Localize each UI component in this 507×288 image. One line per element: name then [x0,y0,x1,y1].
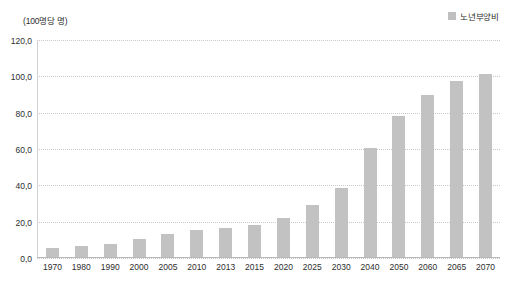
x-axis-tick-label: 2070 [471,262,500,272]
x-axis-tick-label: 1970 [38,262,67,272]
bar[interactable] [133,239,146,257]
legend-item-label: 노년부양비 [460,10,499,22]
bar[interactable] [392,116,405,257]
bar[interactable] [450,81,463,257]
x-axis-tick-label: 1990 [96,262,125,272]
bar-slot [298,40,327,257]
x-axis-tick-label: 2013 [211,262,240,272]
y-axis-tick-label: 20,0 [15,218,32,227]
bar[interactable] [421,95,434,257]
y-axis-tick-label: 100,0 [11,73,32,82]
bar[interactable] [190,230,203,257]
bar[interactable] [335,188,348,257]
plot-area: 0,020,040,060,080,0100,0120,0 [37,40,500,258]
bar[interactable] [248,225,261,257]
bar-slot [269,40,298,257]
y-axis-tick-label: 120,0 [11,37,32,46]
bar-slot [471,40,500,257]
bar[interactable] [479,74,492,257]
bar-slot [413,40,442,257]
x-axis-tick-label: 2030 [327,262,356,272]
x-axis-tick-label: 2010 [182,262,211,272]
bar[interactable] [219,228,232,257]
bar[interactable] [46,248,59,257]
y-axis-tick-label: 0,0 [20,255,32,264]
x-axis-tick-label: 2000 [125,262,154,272]
chart-legend: 노년부양비 [448,10,499,22]
x-axis-tick-label: 2050 [385,262,414,272]
gridline: 0,0 [37,258,500,259]
bar-slot [211,40,240,257]
y-axis-tick-label: 60,0 [15,146,32,155]
y-axis-tick-label: 40,0 [15,182,32,191]
y-axis-unit-label: (100명당 명) [23,14,67,26]
bar-slot [38,40,67,257]
x-axis-tick-label: 2020 [269,262,298,272]
bar-slot [96,40,125,257]
bar-slot [385,40,414,257]
x-axis-tick-label: 2060 [413,262,442,272]
bar[interactable] [306,205,319,257]
bar[interactable] [364,148,377,257]
bar-slot [240,40,269,257]
bar-slot [154,40,183,257]
x-axis-tick-label: 2065 [442,262,471,272]
x-axis-tick-label: 2005 [154,262,183,272]
x-axis-tick-label: 1980 [67,262,96,272]
y-axis-tick-label: 80,0 [15,109,32,118]
bar[interactable] [277,218,290,257]
x-axis-tick-label: 2015 [240,262,269,272]
bar[interactable] [75,246,88,257]
bar-slot [67,40,96,257]
square-swatch-icon [448,12,456,20]
bar-slot [442,40,471,257]
bar-slot [356,40,385,257]
bar[interactable] [104,244,117,257]
x-axis-tick-labels: 1970198019902000200520102013201520202025… [38,262,500,272]
bar[interactable] [161,234,174,257]
bar-series-group [38,40,500,257]
bar-slot [125,40,154,257]
chart-container: (100명당 명) 노년부양비 0,020,040,060,080,0100,0… [0,0,507,288]
x-axis-tick-label: 2025 [298,262,327,272]
bar-slot [182,40,211,257]
bar-slot [327,40,356,257]
x-axis-tick-label: 2040 [356,262,385,272]
